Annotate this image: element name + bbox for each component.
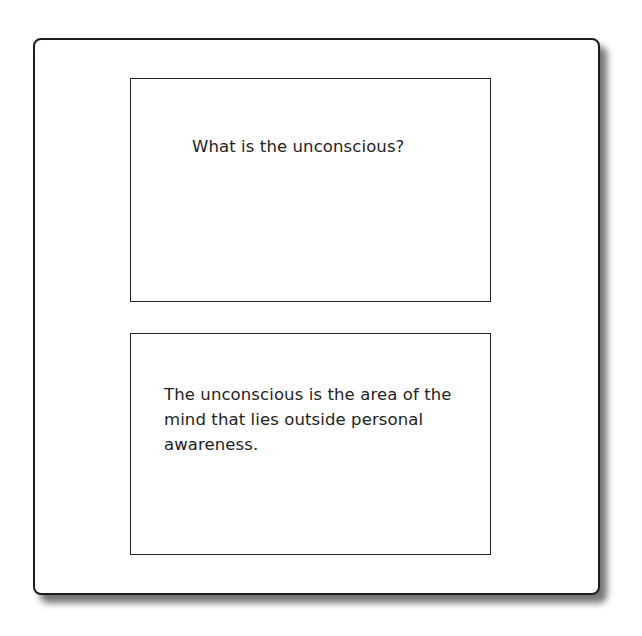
question-text: What is the unconscious? [192, 134, 404, 159]
flashcard-front[interactable]: What is the unconscious? [130, 78, 491, 302]
answer-text: The unconscious is the area of the mind … [164, 382, 474, 457]
flashcard-back[interactable]: The unconscious is the area of the mind … [130, 333, 491, 555]
